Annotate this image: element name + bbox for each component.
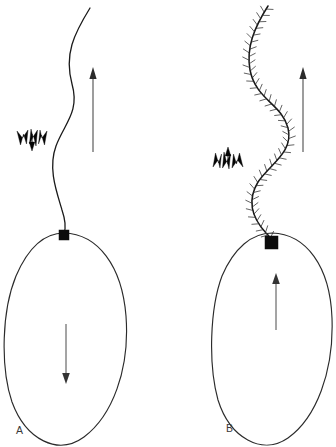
- mastigoneme-layer: [243, 6, 296, 238]
- mastigoneme: [264, 90, 266, 97]
- body-arrow-a: [62, 324, 70, 384]
- mastigoneme: [289, 127, 295, 131]
- motion-arrow-a: [89, 67, 96, 152]
- mastigoneme: [259, 84, 262, 90]
- mastigoneme: [279, 149, 282, 155]
- mastigoneme: [256, 230, 263, 231]
- flagellum-smooth-a: [53, 8, 90, 233]
- mastigoneme: [252, 197, 258, 200]
- mastigoneme: [269, 95, 271, 102]
- mastigoneme: [275, 154, 277, 161]
- mastigoneme: [252, 203, 258, 207]
- panel-b: B: [212, 6, 333, 445]
- mastigoneme: [250, 88, 257, 89]
- mastigoneme: [283, 137, 288, 142]
- mastigoneme: [248, 217, 255, 218]
- mastigoneme: [252, 224, 259, 225]
- flagellum-propulsion-figure: A: [0, 0, 336, 447]
- mastigoneme: [274, 163, 281, 165]
- mastigoneme: [261, 220, 264, 226]
- mastigoneme: [284, 152, 291, 153]
- water-flow-marker-a: [17, 129, 47, 151]
- mastigoneme: [247, 192, 253, 196]
- mastigoneme: [250, 26, 255, 31]
- mastigoneme: [279, 158, 286, 159]
- mastigoneme: [253, 19, 257, 25]
- mastigoneme: [259, 170, 262, 176]
- mastigoneme: [257, 13, 261, 19]
- mastigoneme: [245, 41, 250, 45]
- mastigoneme: [250, 184, 255, 189]
- panel-label-a: A: [16, 424, 23, 436]
- mastigoneme: [260, 99, 267, 101]
- basal-body-b: [265, 236, 278, 249]
- mastigoneme: [279, 105, 282, 112]
- panel-a: A: [4, 8, 126, 445]
- mastigoneme: [255, 79, 259, 85]
- mastigoneme: [250, 66, 255, 71]
- mastigoneme: [287, 145, 294, 146]
- cell-outline-a: [4, 233, 126, 445]
- basal-body-a: [59, 230, 69, 240]
- mastigoneme: [275, 115, 282, 116]
- body-arrow-b: [272, 273, 280, 330]
- mastigoneme: [261, 6, 265, 12]
- cell-outline-b: [212, 233, 333, 445]
- mastigoneme: [254, 177, 258, 183]
- panel-label-b: B: [226, 422, 233, 434]
- mastigoneme: [249, 60, 255, 64]
- mastigoneme: [249, 53, 255, 56]
- mastigoneme: [269, 169, 276, 171]
- mastigoneme: [284, 112, 288, 118]
- figure-root: A: [0, 0, 336, 447]
- mastigoneme: [266, 226, 268, 233]
- mastigoneme: [254, 209, 259, 214]
- mastigoneme: [255, 94, 262, 95]
- mastigoneme: [282, 143, 286, 149]
- mastigoneme: [289, 136, 296, 138]
- mastigoneme: [260, 179, 267, 180]
- mastigoneme: [243, 49, 249, 53]
- water-flow-marker-b: [213, 147, 243, 169]
- mastigoneme: [274, 100, 276, 107]
- mastigoneme: [265, 104, 272, 106]
- mastigoneme: [247, 34, 252, 39]
- mastigoneme: [287, 119, 292, 124]
- mastigoneme: [252, 73, 257, 78]
- mastigoneme: [270, 159, 272, 166]
- mastigoneme: [257, 215, 261, 221]
- mastigoneme: [243, 57, 249, 60]
- motion-arrow-b: [299, 67, 306, 152]
- mastigoneme: [265, 165, 267, 172]
- mastigoneme: [264, 174, 271, 176]
- mastigoneme: [270, 109, 277, 111]
